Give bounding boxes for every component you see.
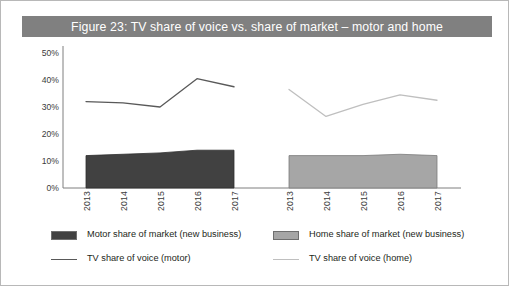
motor-tv-share-of-voice-line (86, 79, 234, 107)
legend-swatch-home-sov-icon (273, 255, 299, 264)
x-tick-home-2015: 2015 (359, 191, 369, 211)
x-tick-motor-2015: 2015 (156, 191, 166, 211)
legend-entry-motor-sov[interactable]: TV share of voice (motor) (51, 249, 191, 269)
plot-area (1, 41, 509, 193)
x-tick-motor-2016: 2016 (193, 191, 203, 211)
legend-label-motor-sov: TV share of voice (motor) (87, 254, 191, 263)
legend-swatch-motor-sov-icon (51, 255, 77, 264)
chart-legend: Motor share of market (new business) Hom… (1, 225, 509, 273)
legend-label-motor-share: Motor share of market (new business) (87, 230, 241, 239)
x-tick-motor-2014: 2014 (119, 191, 129, 211)
legend-entry-motor-share[interactable]: Motor share of market (new business) (51, 225, 241, 245)
figure-title: Figure 23: TV share of voice vs. share o… (71, 20, 443, 34)
x-tick-home-2017: 2017 (433, 191, 443, 211)
x-tick-home-2016: 2016 (396, 191, 406, 211)
legend-entry-home-sov[interactable]: TV share of voice (home) (273, 249, 412, 269)
legend-label-home-share: Home share of market (new business) (309, 230, 464, 239)
figure-container: Figure 23: TV share of voice vs. share o… (0, 0, 509, 286)
x-tick-home-2014: 2014 (322, 191, 332, 211)
figure-title-bar: Figure 23: TV share of voice vs. share o… (22, 16, 492, 37)
legend-entry-home-share[interactable]: Home share of market (new business) (273, 225, 464, 245)
motor-share-of-market-area (86, 150, 234, 188)
x-tick-motor-2013: 2013 (82, 191, 92, 211)
home-tv-share-of-voice-line (289, 89, 437, 116)
legend-swatch-home-share-icon (273, 231, 299, 240)
home-share-of-market-area (289, 154, 437, 188)
x-tick-motor-2017: 2017 (230, 191, 240, 211)
legend-row-areas: Motor share of market (new business) Hom… (1, 225, 509, 245)
x-tick-home-2013: 2013 (285, 191, 295, 211)
legend-label-home-sov: TV share of voice (home) (309, 254, 412, 263)
legend-swatch-motor-share-icon (51, 231, 77, 240)
chart-canvas (1, 41, 509, 193)
legend-row-lines: TV share of voice (motor) TV share of vo… (1, 249, 509, 269)
